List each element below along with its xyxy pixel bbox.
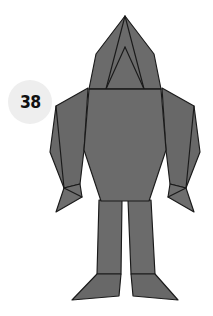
left-leg xyxy=(97,200,122,274)
torso xyxy=(84,89,166,201)
right-leg xyxy=(128,200,155,274)
step-number-badge: 38 xyxy=(8,80,52,124)
origami-figure-illustration xyxy=(0,0,213,316)
figure-canvas xyxy=(0,0,213,316)
step-number-label: 38 xyxy=(20,94,41,111)
